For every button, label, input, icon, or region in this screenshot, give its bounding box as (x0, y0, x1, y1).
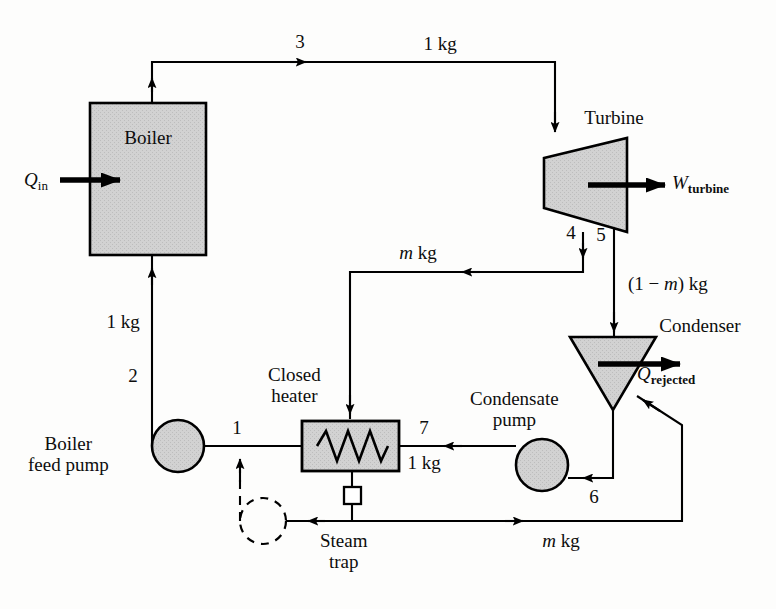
trap-return-mass-unit: kg (556, 530, 580, 551)
state-point-6: 6 (589, 486, 599, 507)
turbine-label: Turbine (584, 107, 643, 128)
state-point-1: 1 (232, 417, 242, 438)
condensate-pump-label-line2: pump (470, 409, 559, 430)
turbine-exit-symbol: m (664, 273, 678, 294)
boiler-label: Boiler (124, 127, 172, 148)
state-point-3: 3 (295, 31, 305, 52)
heat-rejected-symbol: Q (637, 363, 651, 384)
work-turbine-label: Wturbine (672, 172, 729, 196)
mixing-node-dashed-circle (240, 498, 286, 544)
turbine-exit-prefix: (1 − (628, 273, 664, 294)
steam-trap-label: Steam trap (320, 530, 368, 573)
mass-flow-turbine-exit: (1 − m) kg (628, 273, 708, 294)
extraction-mass-unit: kg (413, 242, 437, 263)
state-point-2: 2 (128, 365, 138, 386)
mass-flow-boiler-inlet: 1 kg (106, 311, 139, 332)
heat-in-label: Qin (24, 169, 48, 193)
steam-trap-body[interactable] (344, 487, 361, 504)
pipe-condenser-to-cpump (568, 410, 613, 478)
extraction-mass-symbol: m (399, 242, 413, 263)
state-point-4: 4 (566, 222, 576, 243)
condensate-pump-label-line1: Condensate (470, 388, 559, 409)
boiler-feed-pump-label-line1: Boiler (28, 433, 109, 454)
condenser-label: Condenser (659, 315, 740, 336)
closed-heater-body[interactable] (302, 421, 399, 471)
turbine-exit-suffix: ) kg (678, 273, 708, 294)
mass-flow-trap-return: m kg (542, 530, 579, 551)
mass-flow-heater-outlet: 1 kg (407, 452, 440, 473)
condensate-pump-label: Condensate pump (470, 388, 559, 431)
heat-in-symbol: Q (24, 169, 38, 190)
pipe-boiler-to-turbine (152, 62, 555, 130)
state-point-5: 5 (596, 224, 606, 245)
closed-heater-label: Closed heater (268, 364, 321, 407)
closed-heater-label-line2: heater (268, 385, 321, 406)
steam-trap-label-line1: Steam (320, 530, 368, 551)
heat-in-subscript: in (38, 178, 48, 193)
steam-trap-label-line2: trap (320, 551, 368, 572)
work-symbol: W (672, 172, 688, 193)
trap-return-mass-symbol: m (542, 530, 556, 551)
process-flow-diagram (0, 0, 776, 609)
closed-heater-label-line1: Closed (268, 364, 321, 385)
mass-flow-extraction: m kg (399, 242, 436, 263)
heat-rejected-label: Qrejected (637, 363, 695, 387)
work-subscript: turbine (688, 181, 729, 196)
figure-canvas: Boiler Turbine Condenser Closed heater B… (0, 0, 776, 609)
state-point-7: 7 (419, 417, 429, 438)
mass-flow-boiler-outlet: 1 kg (423, 33, 456, 54)
condensate-pump-body[interactable] (516, 439, 568, 491)
boiler-feed-pump-label: Boiler feed pump (28, 433, 109, 476)
boiler-feed-pump-body[interactable] (152, 420, 204, 472)
arrow-into-condenser (643, 400, 660, 411)
boiler-feed-pump-label-line2: feed pump (28, 454, 109, 475)
heat-rejected-subscript: rejected (651, 372, 696, 387)
